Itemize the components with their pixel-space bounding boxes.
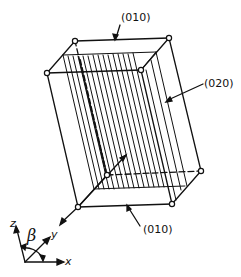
- diagram: (010) (020) (010) z y x β: [0, 0, 241, 277]
- axis-z-label: z: [10, 218, 16, 229]
- diagonal-line: [78, 155, 126, 207]
- hatched-slab: [63, 52, 187, 200]
- label-top-010: (010): [121, 12, 151, 23]
- axis-y-label: y: [51, 229, 58, 240]
- axis-x-label: x: [65, 256, 72, 267]
- label-020: (020): [204, 78, 234, 89]
- beta-angle-label: β: [27, 228, 36, 244]
- leader-020: [168, 84, 203, 100]
- label-bottom-010: (010): [143, 224, 173, 235]
